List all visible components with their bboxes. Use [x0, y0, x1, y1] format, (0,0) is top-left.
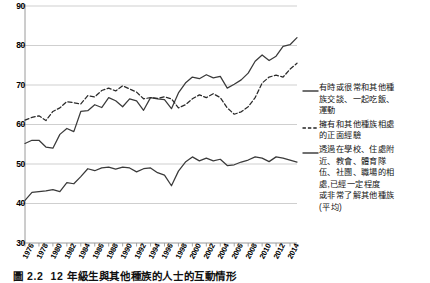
- dashed-line-icon: [302, 123, 319, 133]
- x-axis-tick-label: 2010: [258, 242, 274, 260]
- x-axis-tick-label: 2002: [202, 242, 218, 260]
- solid-line-icon: [302, 86, 319, 96]
- x-axis-tick-label: 1992: [132, 242, 148, 260]
- series-line-3: [25, 157, 297, 200]
- legend-entry-3: 透過在學校、住處附 近、教會、體育隊 伍、社團、職場的相 處,已經一定程度 或非…: [302, 144, 430, 214]
- y-axis-tick-labels: 30405060708090: [0, 0, 25, 250]
- solid-line-icon: [302, 148, 319, 158]
- legend-label-3: 透過在學校、住處附 近、教會、體育隊 伍、社團、職場的相 處,已經一定程度 或非…: [319, 144, 430, 214]
- figure-caption: 圖 2.212 年級生與其他種族的人士的互動情形: [13, 268, 313, 283]
- x-axis-tick-label: 1982: [62, 242, 78, 260]
- x-axis-tick-label: 1984: [76, 242, 92, 260]
- x-axis-tick-label: 2014: [285, 242, 301, 260]
- x-axis-tick-label: 2004: [216, 242, 232, 260]
- x-axis-tick-label: 1978: [34, 242, 50, 260]
- line-chart-svg: [0, 0, 300, 250]
- x-axis-tick-label: 2012: [272, 242, 288, 260]
- y-axis-tick-label: 40: [3, 199, 25, 208]
- x-axis-tick-label: 1980: [48, 242, 64, 260]
- y-axis-tick-label: 50: [3, 160, 25, 169]
- series-line-1: [25, 38, 297, 149]
- legend-entry-1: 有時或很常和其他種 族交談、一起吃飯、 運動: [302, 82, 430, 117]
- figure-caption-number: 圖 2.2: [13, 270, 44, 282]
- y-axis-tick-label: 70: [3, 81, 25, 90]
- chart-plot-area: 30405060708090: [0, 0, 300, 250]
- x-axis-tick-label: 1986: [90, 242, 106, 260]
- legend-entry-2: 擁有和其他種族相處 的正面經驗: [302, 119, 430, 142]
- figure-caption-text: 12 年級生與其他種族的人士的互動情形: [51, 270, 237, 282]
- y-axis-tick-label: 60: [3, 120, 25, 129]
- y-axis-tick-label: 80: [3, 41, 25, 50]
- x-axis-tick-label: 2008: [244, 242, 260, 260]
- figure-container: 30405060708090 1976197819801982198419861…: [0, 0, 430, 283]
- x-axis-tick-label: 1990: [118, 242, 134, 260]
- x-axis-tick-label: 1988: [104, 242, 120, 260]
- x-axis-tick-label: 1998: [174, 242, 190, 260]
- x-axis-tick-label: 1996: [160, 242, 176, 260]
- x-axis-tick-label: 2006: [230, 242, 246, 260]
- chart-legend: 有時或很常和其他種 族交談、一起吃飯、 運動擁有和其他種族相處 的正面經驗透過在…: [302, 82, 430, 216]
- legend-label-2: 擁有和其他種族相處 的正面經驗: [319, 119, 430, 142]
- x-axis-tick-label: 2000: [188, 242, 204, 260]
- series-line-2: [25, 63, 297, 120]
- y-axis-tick-label: 90: [3, 2, 25, 11]
- x-axis-tick-label: 1994: [146, 242, 162, 260]
- x-axis-tick-label: 1976: [20, 242, 36, 260]
- legend-label-1: 有時或很常和其他種 族交談、一起吃飯、 運動: [319, 82, 430, 117]
